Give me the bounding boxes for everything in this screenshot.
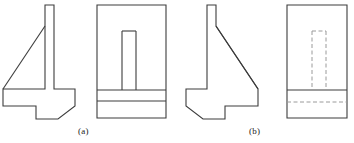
figure-a-group xyxy=(3,5,166,119)
figure-b-caption: (b) xyxy=(249,126,260,136)
figure-a-front-view xyxy=(97,5,166,118)
technical-drawing-canvas xyxy=(0,0,354,143)
figure-sheet: (a) (b) xyxy=(0,0,354,143)
figure-b-rib-hypotenuse xyxy=(216,26,258,89)
figure-b-side-view-outline xyxy=(186,5,258,119)
figure-a-side-view-outline xyxy=(3,5,75,119)
figure-b-side-view xyxy=(186,5,258,119)
figure-a-side-view xyxy=(3,5,75,119)
figure-a-rib-hypotenuse xyxy=(3,26,45,89)
figure-b-front-view-outline xyxy=(287,5,347,118)
figure-a-caption: (a) xyxy=(78,126,89,136)
figure-b-group xyxy=(186,5,347,119)
figure-b-front-view xyxy=(287,5,347,118)
